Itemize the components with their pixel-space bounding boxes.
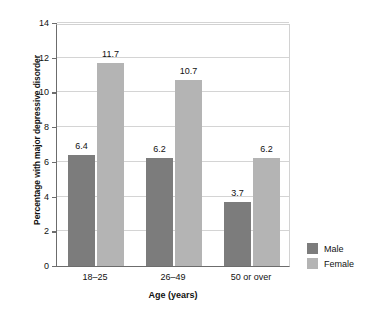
y-axis-tick-label: 12 bbox=[39, 53, 49, 63]
gridline bbox=[57, 126, 289, 127]
bar-male-1 bbox=[68, 155, 95, 266]
legend-item-label: Female bbox=[324, 259, 354, 269]
bar-value-label: 10.7 bbox=[180, 66, 198, 76]
x-axis-category-label: 50 or over bbox=[231, 272, 272, 282]
bar-female-3 bbox=[253, 158, 280, 266]
bar-female-1 bbox=[97, 63, 124, 266]
bar-value-label: 6.2 bbox=[260, 144, 273, 154]
bar-value-label: 3.7 bbox=[231, 188, 244, 198]
x-axis-title: Age (years) bbox=[148, 290, 197, 300]
y-axis-tick-label: 10 bbox=[39, 87, 49, 97]
y-axis-tick-label: 8 bbox=[44, 122, 49, 132]
gridline bbox=[57, 57, 289, 58]
gridline bbox=[57, 22, 289, 23]
y-axis-tick-label: 4 bbox=[44, 192, 49, 202]
bar-male-2 bbox=[146, 158, 173, 266]
y-axis-tick-mark bbox=[52, 127, 57, 128]
y-axis-tick-label: 6 bbox=[44, 157, 49, 167]
y-axis-tick-label: 0 bbox=[44, 261, 49, 271]
bar-male-3 bbox=[224, 202, 251, 266]
y-axis-tick-mark bbox=[52, 58, 57, 59]
x-axis-category-label: 18–25 bbox=[82, 272, 107, 282]
y-axis-tick-mark bbox=[52, 197, 57, 198]
y-axis-tick-mark bbox=[52, 162, 57, 163]
bar-female-2 bbox=[175, 80, 202, 266]
y-axis-tick-mark bbox=[52, 23, 57, 24]
bar-value-label: 11.7 bbox=[102, 49, 119, 59]
legend-swatch-icon bbox=[307, 258, 318, 269]
legend-item-label: Male bbox=[324, 244, 344, 254]
bar-value-label: 6.2 bbox=[153, 144, 166, 154]
legend-item-male: Male bbox=[307, 243, 354, 254]
x-axis-category-label: 26–49 bbox=[160, 272, 185, 282]
gridline bbox=[57, 91, 289, 92]
plot-area: 02468101214 6.411.76.210.73.76.2 bbox=[56, 24, 290, 267]
bar-chart-figure: Percentage with major depressive disorde… bbox=[0, 0, 376, 315]
y-axis-tick-mark bbox=[52, 231, 57, 232]
y-axis-tick-label: 14 bbox=[39, 18, 49, 28]
y-axis-tick-label: 2 bbox=[44, 226, 49, 236]
bar-value-label: 6.4 bbox=[75, 141, 88, 151]
y-axis-tick-mark bbox=[52, 266, 57, 267]
legend-item-female: Female bbox=[307, 258, 354, 269]
legend-swatch-icon bbox=[307, 243, 318, 254]
chart-legend: MaleFemale bbox=[307, 243, 354, 273]
y-axis-tick-mark bbox=[52, 92, 57, 93]
